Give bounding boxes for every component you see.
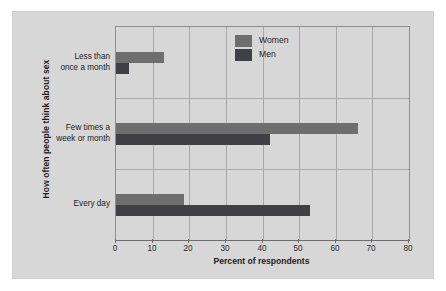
category-label-line: Every day <box>18 199 110 210</box>
bar-women-2 <box>116 194 184 205</box>
legend-label-men: Men <box>259 49 276 59</box>
x-tick-mark <box>225 239 226 243</box>
x-tick-label: 0 <box>103 244 127 253</box>
x-tick-mark <box>335 239 336 243</box>
category-label: Less thanonce a month <box>18 52 116 73</box>
x-tick-mark <box>408 239 409 243</box>
x-tick-mark <box>262 239 263 243</box>
x-tick-mark <box>188 239 189 243</box>
x-tick-label: 60 <box>323 244 347 253</box>
x-tick-label: 10 <box>140 244 164 253</box>
x-axis-title: Percent of respondents <box>115 256 408 266</box>
x-tick-label: 40 <box>250 244 274 253</box>
legend-swatch-women <box>235 35 252 47</box>
gridline-horizontal <box>116 98 409 99</box>
category-label-line: week or month <box>18 134 110 145</box>
x-tick-label: 50 <box>286 244 310 253</box>
category-label-line: Less than <box>18 52 110 63</box>
x-tick-mark <box>152 239 153 243</box>
x-tick-label: 70 <box>359 244 383 253</box>
x-tick-label: 30 <box>213 244 237 253</box>
x-tick-mark <box>298 239 299 243</box>
bar-women-1 <box>116 123 358 134</box>
x-tick-mark <box>371 239 372 243</box>
category-label-line: once a month <box>18 63 110 74</box>
chart-panel: How often people think about sex Less th… <box>12 11 434 279</box>
gridline-vertical <box>372 27 373 240</box>
x-tick-mark <box>115 239 116 243</box>
bar-men-0 <box>116 63 129 74</box>
legend-swatch-men <box>235 49 252 61</box>
x-tick-label: 20 <box>176 244 200 253</box>
category-label: Few times aweek or month <box>18 123 116 144</box>
legend-label-women: Women <box>259 35 288 45</box>
category-label: Every day <box>18 199 116 210</box>
x-tick-label: 80 <box>396 244 420 253</box>
gridline-vertical <box>336 27 337 240</box>
gridline-horizontal <box>116 169 409 170</box>
bar-men-1 <box>116 134 270 145</box>
category-label-line: Few times a <box>18 123 110 134</box>
bar-men-2 <box>116 205 310 216</box>
bar-women-0 <box>116 52 164 63</box>
chart-figure: How often people think about sex Less th… <box>0 0 446 291</box>
